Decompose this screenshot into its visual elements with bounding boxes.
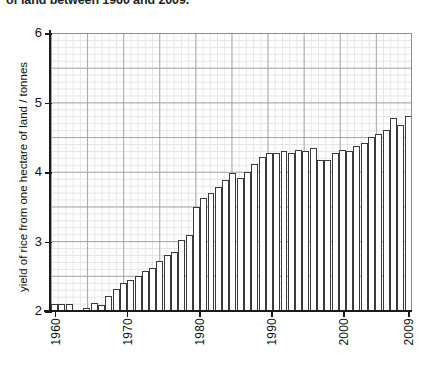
bar	[127, 280, 134, 311]
y-tick-mark	[45, 242, 52, 244]
bar	[215, 187, 222, 311]
bar	[397, 125, 404, 311]
x-tick-label: 1990	[265, 318, 279, 346]
bar	[324, 160, 331, 312]
x-tick-label: 2009	[402, 318, 416, 346]
y-tick-label: 2	[24, 303, 42, 318]
bar	[193, 207, 200, 311]
bar	[171, 252, 178, 311]
x-tick-label: 1980	[193, 318, 207, 346]
x-tick-mark	[343, 311, 345, 317]
y-tick-label: 3	[24, 234, 42, 249]
x-axis-line	[44, 310, 412, 312]
bar	[368, 137, 375, 311]
y-tick-mark	[45, 172, 52, 174]
x-tick-mark	[55, 311, 57, 317]
bar	[375, 134, 382, 311]
plot-area	[51, 33, 412, 311]
x-tick-label: 1970	[121, 318, 135, 346]
y-tick-label: 6	[24, 25, 42, 40]
y-tick-mark	[45, 103, 52, 105]
bar	[310, 148, 317, 311]
bar	[208, 193, 215, 311]
bar	[266, 153, 273, 311]
bar	[120, 283, 127, 311]
bar	[405, 116, 412, 311]
chart-title: of land between 1960 and 2009.	[6, 0, 189, 7]
bar	[259, 157, 266, 311]
x-tick-mark	[408, 311, 410, 317]
bar	[317, 160, 324, 312]
bar	[156, 261, 163, 311]
bar	[186, 235, 193, 311]
bar	[178, 240, 185, 311]
y-tick-label: 4	[24, 164, 42, 179]
x-tick-label: 2000	[337, 318, 351, 346]
bar	[273, 153, 280, 311]
bar	[295, 150, 302, 311]
x-tick-mark	[271, 311, 273, 317]
bar	[149, 268, 156, 311]
x-tick-label: 1960	[49, 318, 63, 346]
bar	[251, 164, 258, 311]
bar	[361, 143, 368, 311]
bar	[142, 271, 149, 311]
bar	[113, 289, 120, 311]
x-tick-mark	[127, 311, 129, 317]
bar	[200, 198, 207, 311]
bar	[390, 118, 397, 311]
bar	[302, 151, 309, 311]
bar	[229, 173, 236, 311]
bar	[237, 178, 244, 311]
bar	[135, 276, 142, 311]
bar	[332, 153, 339, 311]
bar	[339, 150, 346, 311]
bar	[105, 296, 112, 311]
bar	[383, 130, 390, 311]
x-tick-mark	[199, 311, 201, 317]
bar	[164, 255, 171, 311]
y-tick-label: 5	[24, 95, 42, 110]
bar	[346, 151, 353, 311]
bar-series	[51, 33, 412, 311]
y-tick-mark	[45, 311, 52, 313]
y-tick-mark	[45, 33, 52, 35]
bar	[353, 146, 360, 311]
bar	[244, 172, 251, 311]
bar	[281, 151, 288, 311]
bar	[222, 180, 229, 311]
bar	[288, 153, 295, 311]
